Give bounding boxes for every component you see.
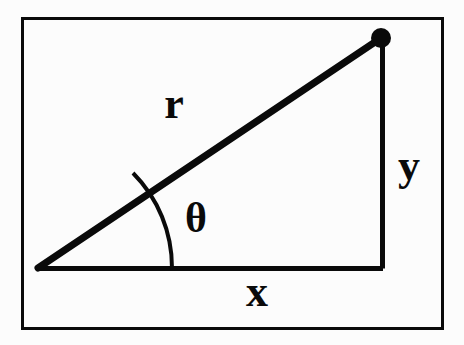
label-x: x	[246, 267, 268, 316]
label-theta: θ	[185, 195, 207, 241]
label-y: y	[398, 141, 420, 190]
figure-container: r y x θ	[0, 0, 464, 345]
label-r: r	[164, 79, 184, 128]
triangle-diagram: r y x θ	[0, 0, 464, 345]
figure-background	[0, 0, 464, 345]
endpoint-dot	[371, 28, 391, 48]
